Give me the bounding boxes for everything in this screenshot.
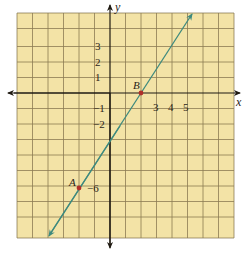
x-tick-4: 4 <box>168 101 174 113</box>
x-tick-3: 3 <box>153 101 159 113</box>
point-a-label: A <box>68 176 76 188</box>
coordinate-plane: x y 3 4 5 3 2 1 −1 −2 −6 B A <box>0 0 247 258</box>
point-b <box>139 91 144 96</box>
y-tick-neg1: −1 <box>93 102 105 114</box>
y-tick-3: 3 <box>95 40 101 52</box>
x-tick-5: 5 <box>183 101 189 113</box>
y-axis-label: y <box>114 0 121 14</box>
y-tick-neg6: −6 <box>87 182 99 194</box>
y-tick-1: 1 <box>95 71 101 83</box>
x-axis-label: x <box>235 95 242 109</box>
y-tick-neg2: −2 <box>93 118 105 130</box>
y-tick-2: 2 <box>95 56 101 68</box>
point-b-label: B <box>133 79 140 91</box>
point-a <box>77 186 82 191</box>
